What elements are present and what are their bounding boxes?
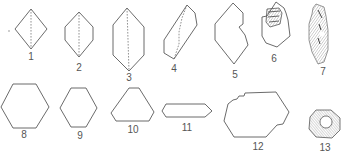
label-4: 4 xyxy=(171,63,177,74)
label-6: 6 xyxy=(271,53,277,64)
crystal-habit-figure: 1 2 3 4 5 6 7 xyxy=(0,0,344,156)
label-11: 11 xyxy=(182,122,193,133)
shape-6: 6 xyxy=(262,2,290,64)
label-13: 13 xyxy=(319,142,331,153)
shape-1: 1 xyxy=(15,9,47,62)
stray-mark xyxy=(8,30,9,31)
label-3: 3 xyxy=(126,72,132,83)
shape-9: 9 xyxy=(60,88,97,141)
label-8: 8 xyxy=(21,129,27,140)
label-9: 9 xyxy=(77,130,83,141)
label-12: 12 xyxy=(252,141,264,152)
label-1: 1 xyxy=(28,51,34,62)
shape-7: 7 xyxy=(309,4,328,77)
shape-10: 10 xyxy=(111,88,154,135)
label-5: 5 xyxy=(232,69,238,80)
shape-2: 2 xyxy=(65,12,93,73)
shape-3: 3 xyxy=(113,8,144,83)
label-10: 10 xyxy=(127,124,139,135)
shape-4: 4 xyxy=(164,5,197,74)
label-2: 2 xyxy=(76,62,82,73)
shape-12: 12 xyxy=(224,92,289,152)
shape-13: 13 xyxy=(309,110,340,153)
hatched-inclusion xyxy=(266,8,282,27)
shape-8: 8 xyxy=(1,84,49,140)
shape-11: 11 xyxy=(162,104,212,133)
label-7: 7 xyxy=(320,66,326,77)
shape-5: 5 xyxy=(215,3,248,80)
